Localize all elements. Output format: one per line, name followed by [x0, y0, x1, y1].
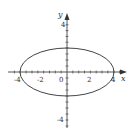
tick-label-x-2: 2	[87, 76, 91, 84]
ellipse-diagram: y x -4 -2 0 2 4 4 -4	[0, 0, 134, 134]
tick-label-x-4: 4	[111, 76, 116, 84]
tick-label-origin: 0	[59, 76, 63, 84]
tick-label-y-neg4: -4	[57, 116, 64, 124]
y-axis-label: y	[57, 10, 63, 19]
tick-label-x-neg4: -4	[14, 76, 21, 84]
tick-label-y-4: 4	[61, 21, 66, 29]
x-axis-label: x	[121, 74, 126, 83]
tick-label-x-neg2: -2	[37, 76, 44, 84]
